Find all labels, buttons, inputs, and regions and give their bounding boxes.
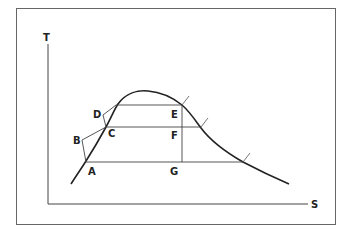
path-c-d (103, 105, 116, 127)
label-e: E (171, 109, 178, 120)
label-f: F (171, 130, 178, 141)
ts-diagram: T S A B C D E F G (0, 0, 350, 230)
tick-e (182, 96, 189, 105)
label-a: A (88, 166, 96, 177)
label-g: G (170, 166, 178, 177)
label-b: B (73, 135, 81, 146)
s-axis-label: S (311, 199, 318, 210)
label-c: C (108, 128, 115, 139)
tick-g (243, 153, 250, 162)
tick-f (201, 118, 208, 127)
t-axis-label: T (43, 32, 50, 43)
label-d: D (93, 109, 101, 120)
